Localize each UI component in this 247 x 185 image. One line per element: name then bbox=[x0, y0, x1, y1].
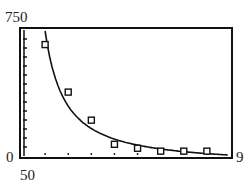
x-tick bbox=[67, 153, 69, 155]
ymax-label: 750 bbox=[5, 9, 28, 25]
plot-frame bbox=[20, 28, 232, 158]
data-point bbox=[42, 42, 48, 48]
x-tick bbox=[137, 153, 139, 155]
data-point bbox=[135, 145, 141, 151]
data-point bbox=[204, 148, 210, 154]
fit-curve bbox=[45, 31, 228, 155]
data-point bbox=[65, 89, 71, 95]
data-point bbox=[181, 148, 187, 154]
x-tick bbox=[90, 153, 92, 155]
data-point bbox=[88, 117, 94, 123]
x-tick bbox=[114, 153, 116, 155]
data-point bbox=[158, 148, 164, 154]
data-points bbox=[42, 42, 210, 155]
y-ticks bbox=[23, 30, 27, 156]
data-point bbox=[111, 141, 117, 147]
xmin-label: 0 bbox=[6, 149, 14, 165]
chart: 750 0 9 50 bbox=[0, 0, 247, 185]
xmax-label: 9 bbox=[236, 149, 244, 165]
x-tick bbox=[44, 153, 46, 155]
ymin-label: 50 bbox=[20, 167, 35, 183]
